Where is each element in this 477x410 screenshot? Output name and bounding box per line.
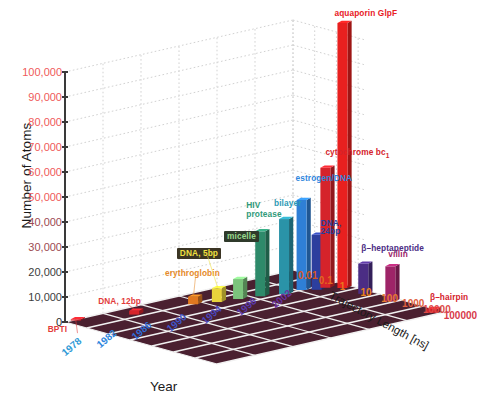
y-tick-mark: [62, 271, 68, 273]
bar-front: [279, 219, 289, 294]
bar-side: [222, 286, 226, 302]
z-tick-label: 100: [381, 293, 398, 304]
bar-label: villin: [388, 250, 408, 259]
z-tick-label: 0.1: [319, 275, 333, 286]
bar-label: DNA, 12bp: [98, 297, 141, 306]
bar-front: [129, 311, 139, 315]
bar-label: micelle: [224, 231, 259, 242]
y-tick-mark: [62, 96, 68, 98]
bar-side: [243, 277, 247, 299]
bar: [212, 286, 226, 302]
z-tick-label: 0.01: [298, 270, 317, 281]
bar-label: β–hairpin: [430, 293, 468, 302]
y-tick-mark: [62, 171, 68, 173]
bar-label: bilayer: [274, 199, 301, 208]
bar-label: estrogen/DNA: [296, 174, 353, 183]
y-tick-label: 10,000: [0, 291, 62, 303]
y-tick-label: 80,000: [0, 116, 62, 128]
bar-side: [265, 229, 269, 296]
y-tick-mark: [62, 221, 68, 223]
z-tick-label: 10: [360, 287, 371, 298]
bar: [233, 277, 247, 299]
y-tick-label: 90,000: [0, 91, 62, 103]
y-tick-label: 50,000: [0, 191, 62, 203]
bar: [188, 295, 202, 305]
bar-label: aquaporin GlpF: [334, 9, 397, 18]
bar-front: [212, 288, 222, 302]
bar: [279, 217, 293, 294]
bar-front: [188, 297, 198, 305]
bar-side: [289, 217, 293, 294]
bar-front: [233, 279, 243, 299]
y-tick-label: 0: [0, 316, 62, 328]
y-tick-label: 40,000: [0, 216, 62, 228]
y-tick-mark: [62, 246, 68, 248]
y-tick-label: 30,000: [0, 241, 62, 253]
y-tick-mark: [62, 196, 68, 198]
y-tick-mark: [62, 296, 68, 298]
z-tick-label: 1000: [402, 298, 424, 309]
y-tick-mark: [62, 146, 68, 148]
y-tick-label: 20,000: [0, 266, 62, 278]
z-tick-label: 1: [340, 281, 346, 292]
y-tick-mark: [62, 71, 68, 73]
y-tick-label: 60,000: [0, 166, 62, 178]
bar-label: DNA, 5bp: [177, 248, 221, 259]
y-tick-label: 100,000: [0, 66, 62, 78]
y-tick-label: 70,000: [0, 141, 62, 153]
bar-label: cytochrome bc1: [325, 148, 389, 159]
z-tick-label: 100000: [444, 310, 477, 321]
y-tick-mark: [62, 121, 68, 123]
bar-label: DNA,24bp: [321, 219, 342, 236]
x-axis-title: Year: [150, 379, 177, 394]
y-tick-mark: [62, 321, 68, 323]
